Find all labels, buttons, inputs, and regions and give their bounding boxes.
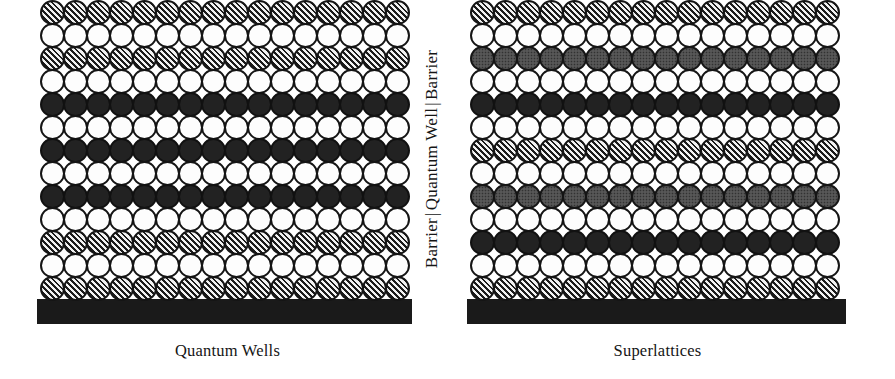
atom-hatched (493, 0, 518, 25)
atom-white (270, 23, 295, 48)
atom-white (700, 253, 725, 278)
atom-white (631, 115, 656, 140)
atom-gray (815, 184, 840, 209)
atom-gray (608, 184, 633, 209)
atom-white (40, 161, 65, 186)
atom-black (155, 184, 180, 209)
atom-white (815, 23, 840, 48)
atom-white (539, 253, 564, 278)
atom-white (247, 23, 272, 48)
atom-lattice-quantum-wells (40, 0, 415, 299)
atom-white (792, 115, 817, 140)
atom-white (608, 69, 633, 94)
atom-white (516, 69, 541, 94)
atom-white (562, 69, 587, 94)
atom-white (178, 253, 203, 278)
atom-white (40, 23, 65, 48)
atom-white (339, 161, 364, 186)
atom-white (562, 253, 587, 278)
atom-white (339, 23, 364, 48)
atom-row (40, 0, 415, 23)
atom-hatched (270, 276, 295, 301)
atom-gray (746, 184, 771, 209)
atom-white (654, 69, 679, 94)
atom-hatched (293, 230, 318, 255)
atom-black (178, 138, 203, 163)
atom-gray (723, 46, 748, 71)
atom-row (40, 276, 415, 299)
atom-black (539, 230, 564, 255)
atom-black (746, 92, 771, 117)
atom-hatched (132, 230, 157, 255)
atom-black (562, 92, 587, 117)
atom-white (86, 23, 111, 48)
atom-black (270, 184, 295, 209)
atom-white (585, 161, 610, 186)
atom-white (109, 23, 134, 48)
atom-black (700, 92, 725, 117)
atom-white (178, 207, 203, 232)
atom-hatched (608, 138, 633, 163)
atom-row (470, 23, 845, 46)
atom-black (63, 138, 88, 163)
atom-black (40, 138, 65, 163)
atom-black (723, 92, 748, 117)
atom-white (516, 23, 541, 48)
atom-white (516, 115, 541, 140)
atom-white (677, 115, 702, 140)
atom-hatched (493, 138, 518, 163)
atom-white (677, 161, 702, 186)
atom-white (470, 23, 495, 48)
atom-hatched (247, 230, 272, 255)
atom-white (316, 207, 341, 232)
atom-white (86, 115, 111, 140)
atom-black (769, 230, 794, 255)
atom-white (769, 161, 794, 186)
atom-white (493, 23, 518, 48)
atom-white (362, 207, 387, 232)
atom-hatched (677, 0, 702, 25)
center-axis-label: Barrier|Quantum Well|Barrier (402, 0, 462, 318)
atom-hatched (201, 0, 226, 25)
atom-lattice-superlattices (470, 0, 845, 299)
atom-white (224, 115, 249, 140)
atom-hatched (339, 276, 364, 301)
atom-hatched (746, 276, 771, 301)
atom-white (155, 253, 180, 278)
atom-hatched (539, 276, 564, 301)
atom-white (178, 69, 203, 94)
atom-white (293, 23, 318, 48)
atom-row (40, 161, 415, 184)
caption-superlattices: Superlattices (470, 324, 845, 361)
atom-hatched (224, 276, 249, 301)
atom-white (539, 69, 564, 94)
atom-hatched (362, 0, 387, 25)
atom-white (155, 23, 180, 48)
atom-hatched (362, 230, 387, 255)
atom-white (155, 69, 180, 94)
atom-white (746, 253, 771, 278)
atom-white (247, 161, 272, 186)
atom-white (700, 115, 725, 140)
atom-black (746, 230, 771, 255)
atom-black (224, 138, 249, 163)
atom-white (63, 253, 88, 278)
atom-white (516, 207, 541, 232)
atom-gray (769, 46, 794, 71)
atom-white (631, 161, 656, 186)
atom-white (224, 161, 249, 186)
atom-row (40, 230, 415, 253)
atom-gray (677, 46, 702, 71)
atom-black (539, 92, 564, 117)
atom-white (700, 207, 725, 232)
atom-hatched (293, 0, 318, 25)
atom-white (746, 23, 771, 48)
atom-hatched (316, 230, 341, 255)
atom-white (815, 161, 840, 186)
atom-white (155, 161, 180, 186)
atom-hatched (63, 46, 88, 71)
atom-white (109, 253, 134, 278)
atom-white (608, 207, 633, 232)
atom-hatched (539, 0, 564, 25)
atom-hatched (769, 138, 794, 163)
